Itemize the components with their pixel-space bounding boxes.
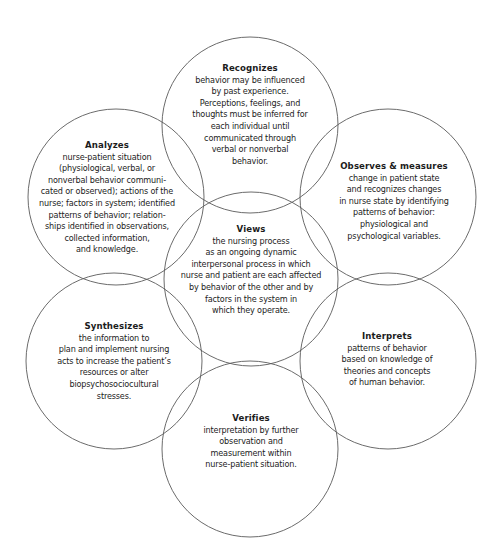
node-text-line: factors in the system in	[181, 294, 321, 306]
node-text-line: theories and concepts	[342, 366, 433, 378]
node-text-line: based on knowledge of	[342, 354, 433, 366]
node-text-line: each individual until	[192, 121, 307, 133]
node-title: Observes & measures	[339, 161, 448, 173]
node-verifies: Verifies interpretation by further obser…	[203, 413, 298, 471]
node-text-line: patterns of behavior; relation-	[39, 210, 175, 222]
node-text-line: behavior may be influenced	[192, 75, 307, 87]
node-text-line: which they operate.	[181, 305, 321, 317]
node-text-line: as an ongoing dynamic	[181, 247, 321, 259]
node-text-line: nurse and patient are each affected	[181, 270, 321, 282]
node-title: Interprets	[342, 331, 433, 343]
node-text-line: resources or alter	[57, 367, 171, 379]
node-text-line: by past experience.	[192, 86, 307, 98]
node-title: Recognizes	[192, 63, 307, 75]
node-text-line: measurement within	[203, 448, 298, 460]
node-text-line: by behavior of the other and by	[181, 282, 321, 294]
node-title: Synthesizes	[57, 321, 171, 333]
node-text-line: interpretation by further	[203, 425, 298, 437]
node-analyzes: Analyzes nurse-patient situation (physio…	[39, 140, 175, 256]
node-text-line: nurse-patient situation.	[203, 459, 298, 471]
node-text-line: ships identified in observations,	[39, 221, 175, 233]
node-text-line: (physiological, verbal, or	[39, 163, 175, 175]
node-text-line: and knowledge.	[39, 244, 175, 256]
node-text-line: plan and implement nursing	[57, 344, 171, 356]
node-title: Verifies	[203, 413, 298, 425]
node-text-line: interpersonal process in which	[181, 259, 321, 271]
node-text-line: patterns of behavior:	[339, 207, 448, 219]
node-views-center: Views the nursing process as an ongoing …	[181, 224, 321, 317]
node-title: Analyzes	[39, 140, 175, 152]
node-text-line: collected information,	[39, 233, 175, 245]
node-text-line: thoughts must be inferred for	[192, 109, 307, 121]
node-text-line: and recognizes changes	[339, 184, 448, 196]
node-text-line: nonverbal behavior communi-	[39, 175, 175, 187]
node-text-line: observation and	[203, 436, 298, 448]
node-text-line: cated or observed); actions of the	[39, 186, 175, 198]
node-text-line: communicated through	[192, 133, 307, 145]
node-text-line: patterns of behavior	[342, 343, 433, 355]
node-synthesizes: Synthesizes the information to plan and …	[57, 321, 171, 402]
node-recognizes: Recognizes behavior may be influenced by…	[192, 63, 307, 167]
node-text-line: behavior.	[192, 156, 307, 168]
node-text-line: nurse-patient situation	[39, 152, 175, 164]
node-text-line: change in patient state	[339, 173, 448, 185]
node-text-line: Perceptions, feelings, and	[192, 98, 307, 110]
node-observes-measures: Observes & measures change in patient st…	[339, 161, 448, 242]
node-interprets: Interprets patterns of behavior based on…	[342, 331, 433, 389]
node-text-line: physiological and	[339, 219, 448, 231]
node-title: Views	[181, 224, 321, 236]
node-text-line: biopsychosociocultural	[57, 379, 171, 391]
node-text-line: the information to	[57, 333, 171, 345]
node-text-line: in nurse state by identifying	[339, 196, 448, 208]
node-text-line: psychological variables.	[339, 231, 448, 243]
node-text-line: stresses.	[57, 391, 171, 403]
node-text-line: of human behavior.	[342, 377, 433, 389]
node-text-line: verbal or nonverbal	[192, 144, 307, 156]
node-text-line: acts to increase the patient’s	[57, 356, 171, 368]
node-text-line: nurse; factors in system; identified	[39, 198, 175, 210]
node-text-line: the nursing process	[181, 236, 321, 248]
